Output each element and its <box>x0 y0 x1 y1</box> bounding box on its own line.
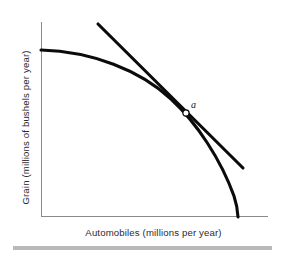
tangent-line <box>98 24 243 168</box>
ppf-plot-area: a <box>0 0 281 260</box>
x-axis-title: Automobiles (millions per year) <box>0 227 281 238</box>
ppf-figure: a Automobiles (millions per year) Grain … <box>0 0 281 260</box>
tangency-point-marker <box>183 110 189 116</box>
y-axis-title: Grain (millions of bushels per year) <box>20 28 31 228</box>
point-label-a: a <box>191 99 196 110</box>
bottom-divider-rule <box>13 246 272 250</box>
